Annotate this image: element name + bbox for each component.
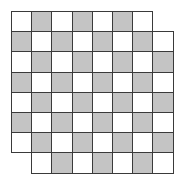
light-square: [72, 31, 93, 52]
light-square: [132, 51, 153, 73]
light-square: [152, 72, 174, 93]
light-square: [72, 112, 93, 133]
light-square: [51, 51, 73, 73]
dark-square: [132, 112, 153, 133]
dark-square: [51, 152, 73, 174]
light-square: [112, 72, 133, 93]
light-square: [72, 72, 93, 93]
light-square: [112, 112, 133, 133]
dark-square: [51, 72, 73, 93]
dark-square: [152, 51, 174, 73]
dark-square: [31, 132, 52, 153]
dark-square: [92, 72, 113, 93]
light-square: [112, 152, 133, 174]
dark-square: [72, 132, 93, 153]
light-square: [11, 132, 32, 153]
dark-square: [112, 92, 133, 113]
light-square: [132, 92, 153, 113]
dark-square: [31, 51, 52, 73]
dark-square: [92, 112, 113, 133]
light-square: [132, 132, 153, 153]
light-square: [51, 11, 73, 32]
light-square: [152, 152, 174, 174]
light-square: [92, 132, 113, 153]
dark-square: [112, 11, 133, 32]
light-square: [92, 11, 113, 32]
light-square: [31, 72, 52, 93]
light-square: [51, 132, 73, 153]
dark-square: [72, 51, 93, 73]
dark-square: [72, 92, 93, 113]
dark-square: [11, 31, 32, 52]
light-square: [31, 112, 52, 133]
light-square: [152, 112, 174, 133]
dark-square: [11, 72, 32, 93]
dark-square: [51, 31, 73, 52]
dark-square: [112, 132, 133, 153]
mutilated-chessboard: [11, 11, 173, 172]
light-square: [11, 51, 32, 73]
dark-square: [132, 72, 153, 93]
light-square: [72, 152, 93, 174]
light-square: [152, 31, 174, 52]
light-square: [112, 31, 133, 52]
dark-square: [112, 51, 133, 73]
dark-square: [152, 132, 174, 153]
dark-square: [132, 152, 153, 174]
dark-square: [92, 31, 113, 52]
dark-square: [11, 112, 32, 133]
light-square: [11, 11, 32, 32]
light-square: [132, 11, 153, 32]
light-square: [51, 92, 73, 113]
dark-square: [152, 92, 174, 113]
light-square: [92, 51, 113, 73]
light-square: [11, 92, 32, 113]
dark-square: [31, 92, 52, 113]
dark-square: [72, 11, 93, 32]
light-square: [31, 152, 52, 174]
dark-square: [92, 152, 113, 174]
dark-square: [51, 112, 73, 133]
dark-square: [132, 31, 153, 52]
light-square: [31, 31, 52, 52]
dark-square: [31, 11, 52, 32]
light-square: [92, 92, 113, 113]
